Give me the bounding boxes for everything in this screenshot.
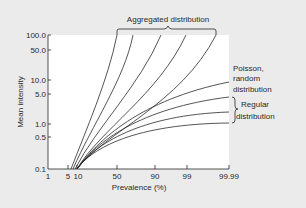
poisson-label-line2: random [233,74,260,83]
y-tick-label: 50.0 [30,46,46,55]
x-tick-labels: 1 5 10 50 90 99 99.99 [46,172,240,181]
aggregated-label: Aggregated distribution [127,15,209,24]
y-tick-label: 1.0 [35,120,47,129]
plot-area [48,35,229,169]
x-tick-label: 50 [113,172,122,181]
regular-label-line1: Regular [241,100,269,109]
x-tick-label: 90 [151,172,160,181]
chart-canvas: 100.0 50.0 10.0 5.0 1.0 0.5 0.1 1 5 10 5… [0,0,306,208]
x-tick-label: 99 [183,172,192,181]
y-tick-label: 100.0 [26,31,47,40]
poisson-label-line1: Poisson, [233,64,264,73]
y-tick-label: 0.5 [35,133,47,142]
x-tick-label: 99.99 [219,172,240,181]
x-tick-label: 5 [66,172,71,181]
poisson-label: Poisson, random distribution [233,64,272,94]
aggregated-brace [117,26,216,35]
y-axis-title: Mean intensity [16,76,25,128]
y-tick-label: 10.0 [30,76,46,85]
x-tick-label: 1 [46,172,51,181]
poisson-label-line3: distribution [233,85,272,94]
regular-label-line2: distribution [236,112,275,121]
y-tick-labels: 100.0 50.0 10.0 5.0 1.0 0.5 0.1 [26,31,47,174]
regular-label: Regular distribution [236,100,275,121]
x-tick-label: 10 [74,172,83,181]
y-tick-label: 5.0 [35,90,47,99]
x-axis-title: Prevalence (%) [112,183,167,192]
